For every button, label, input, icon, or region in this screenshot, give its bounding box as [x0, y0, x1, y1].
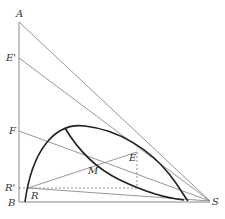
label-R: R [30, 190, 39, 201]
inner-curve [65, 128, 184, 200]
label-A: A [15, 8, 23, 19]
label-E-prime: E' [5, 52, 16, 63]
line-AS [19, 22, 210, 201]
outer-curve [25, 126, 188, 202]
line-RE [28, 152, 137, 188]
geometry-diagram: A E' F R' B R M E S [0, 0, 225, 219]
line-E-prime-S [19, 58, 210, 201]
label-S: S [212, 196, 219, 207]
label-E: E [128, 152, 137, 163]
label-F: F [8, 125, 17, 136]
label-M: M [87, 165, 99, 176]
label-B: B [7, 197, 15, 208]
label-R-prime: R' [4, 182, 15, 193]
